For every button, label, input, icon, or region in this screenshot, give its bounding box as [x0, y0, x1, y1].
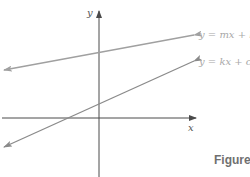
figure-diagram: y x y = mx + b y = kx + c Figure: [0, 0, 250, 177]
figure-caption: Figure: [214, 153, 250, 167]
equation-label-line-1: y = mx + b: [198, 29, 250, 40]
equation-label-line-2: y = kx + c: [198, 56, 250, 67]
y-axis-label: y: [86, 7, 93, 18]
x-axis-label: x: [188, 122, 194, 133]
coordinate-plane: y x y = mx + b y = kx + c: [0, 0, 250, 177]
